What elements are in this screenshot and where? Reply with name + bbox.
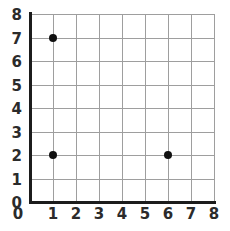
y-tick-label: 6	[6, 55, 22, 70]
x-tick-label: 5	[136, 207, 154, 222]
plot-area	[30, 14, 214, 202]
x-tick-label: 6	[159, 207, 177, 222]
y-tick-label: 4	[6, 102, 22, 117]
gridline-horizontal	[30, 108, 214, 109]
gridline-horizontal	[30, 14, 214, 15]
data-point	[49, 34, 57, 42]
x-tick-label: 7	[182, 207, 200, 222]
y-tick-label: 5	[6, 79, 22, 94]
x-tick-label: 3	[90, 207, 108, 222]
y-tick-label: 1	[6, 173, 22, 188]
gridline-vertical	[214, 14, 215, 202]
y-tick-label: 3	[6, 126, 22, 141]
gridline-horizontal	[30, 38, 214, 39]
x-tick-label: 4	[113, 207, 131, 222]
x-tick-label: 2	[67, 207, 85, 222]
gridline-horizontal	[30, 132, 214, 133]
gridline-horizontal	[30, 179, 214, 180]
x-tick-label: 1	[44, 207, 62, 222]
data-point	[164, 151, 172, 159]
x-tick-label: 8	[205, 207, 223, 222]
y-tick-label: 2	[6, 149, 22, 164]
data-point	[49, 151, 57, 159]
y-tick-label: 8	[6, 8, 22, 23]
gridline-horizontal	[30, 61, 214, 62]
gridline-horizontal	[30, 85, 214, 86]
y-axis-line	[29, 12, 32, 204]
scatter-plot-figure: 8 7 6 5 4 3 2 1 0 0 1 2 3 4 5 6 7 8	[0, 0, 230, 231]
y-tick-label: 7	[6, 32, 22, 47]
x-axis-line	[29, 201, 216, 204]
gridline-horizontal	[30, 155, 214, 156]
x-tick-label: 0	[9, 207, 27, 222]
